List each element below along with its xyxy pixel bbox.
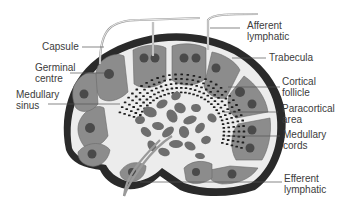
paracortical-dot <box>148 86 151 88</box>
paracortical-dot <box>175 78 178 80</box>
paracortical-dot <box>237 121 240 123</box>
paracortical-dot <box>184 92 187 94</box>
paracortical-dot <box>221 142 224 144</box>
paracortical-dot <box>156 97 159 99</box>
label-medullary-cords: Medullary cords <box>283 129 326 151</box>
paracortical-dot <box>215 84 218 86</box>
paracortical-dot <box>217 103 220 105</box>
paracortical-dot <box>124 101 127 103</box>
paracortical-dot <box>180 74 183 76</box>
paracortical-dot <box>130 110 133 112</box>
label-germinal-centre: Germinal centre <box>35 62 76 84</box>
paracortical-dot <box>240 147 243 149</box>
paracortical-dot <box>162 76 165 78</box>
paracortical-dot <box>226 118 229 120</box>
label-cortical-follicle: Cortical follicle <box>282 76 316 98</box>
follicle <box>232 118 271 160</box>
paracortical-dot <box>215 109 218 111</box>
paracortical-dot <box>162 90 165 92</box>
paracortical-dot <box>217 97 220 99</box>
germinal-centre <box>228 170 237 179</box>
paracortical-dot <box>131 93 134 95</box>
paracortical-dot <box>225 98 228 100</box>
paracortical-dot <box>139 105 142 107</box>
paracortical-dot <box>231 106 234 108</box>
paracortical-dot <box>187 74 190 76</box>
germinal-centre <box>88 150 97 159</box>
paracortical-dot <box>223 131 226 133</box>
label-medullary-sinus: Medullary sinus <box>16 89 59 111</box>
paracortical-dot <box>232 140 235 142</box>
paracortical-dot <box>240 114 243 116</box>
paracortical-dot <box>222 138 225 140</box>
paracortical-dot <box>203 93 206 95</box>
paracortical-dot <box>242 125 245 127</box>
paracortical-dot <box>146 99 149 101</box>
paracortical-dot <box>160 86 163 88</box>
paracortical-dot <box>229 113 232 115</box>
germinal-centre <box>104 69 114 79</box>
paracortical-dot <box>220 87 223 89</box>
paracortical-dot <box>220 107 223 109</box>
paracortical-dot <box>214 100 217 102</box>
paracortical-dot <box>186 78 189 80</box>
paracortical-dot <box>221 94 224 96</box>
label-afferent-lymphatic: Afferent lymphatic <box>247 20 289 42</box>
paracortical-dot <box>207 95 210 97</box>
paracortical-dot <box>142 95 145 97</box>
paracortical-dot <box>146 92 149 94</box>
paracortical-dot <box>192 79 195 81</box>
paracortical-dot <box>242 142 245 144</box>
paracortical-dot <box>163 94 166 96</box>
paracortical-dot <box>188 92 191 94</box>
germinal-centre <box>180 54 189 63</box>
paracortical-dot <box>168 74 171 76</box>
label-paracortical-area: Paracortical area <box>282 103 335 125</box>
paracortical-dot <box>202 82 205 84</box>
medullary-cord <box>169 140 183 148</box>
paracortical-dot <box>123 113 126 115</box>
paracortical-dot <box>146 105 149 107</box>
germinal-centre <box>246 144 255 153</box>
germinal-centre <box>85 123 95 133</box>
paracortical-dot <box>207 101 210 103</box>
paracortical-dot <box>217 90 220 92</box>
paracortical-dot <box>174 74 177 76</box>
paracortical-dot <box>135 96 138 98</box>
paracortical-dot <box>145 82 148 84</box>
germinal-centre <box>235 87 245 97</box>
paracortical-dot <box>140 85 143 87</box>
paracortical-dot <box>199 76 202 78</box>
paracortical-dot <box>137 108 140 110</box>
germinal-centre <box>248 126 257 135</box>
paracortical-dot <box>192 93 195 95</box>
paracortical-dot <box>237 141 240 143</box>
germinal-centre <box>248 100 257 109</box>
paracortical-dot <box>235 116 238 118</box>
paracortical-dot <box>228 131 231 133</box>
paracortical-dot <box>243 136 246 138</box>
paracortical-dot <box>196 95 199 97</box>
paracortical-dot <box>197 81 200 83</box>
paracortical-dot <box>170 83 173 85</box>
paracortical-dot <box>175 87 178 89</box>
paracortical-dot <box>155 87 158 89</box>
paracortical-dot <box>227 122 230 124</box>
paracortical-dot <box>228 95 231 97</box>
paracortical-dot <box>204 99 207 101</box>
paracortical-dot <box>235 146 238 148</box>
paracortical-dot <box>169 79 172 81</box>
paracortical-dot <box>213 94 216 96</box>
paracortical-dot <box>119 111 122 113</box>
paracortical-dot <box>200 87 203 89</box>
paracortical-dot <box>149 102 152 104</box>
paracortical-dot <box>180 92 183 94</box>
paracortical-dot <box>125 108 128 110</box>
paracortical-dot <box>163 80 166 82</box>
paracortical-dot <box>210 103 213 105</box>
paracortical-dot <box>175 83 178 85</box>
paracortical-dot <box>227 127 230 129</box>
paracortical-dot <box>189 88 192 90</box>
paracortical-dot <box>156 77 159 79</box>
label-capsule: Capsule <box>42 41 79 52</box>
